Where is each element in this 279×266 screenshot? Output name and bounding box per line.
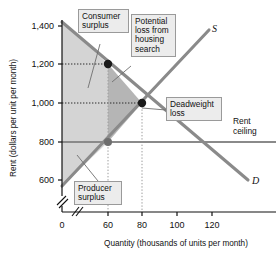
producer-surplus-region bbox=[62, 103, 108, 142]
supply-curve-label: S bbox=[212, 23, 217, 34]
demand-curve-label: D bbox=[251, 175, 260, 186]
y-tick-label-600: 600 bbox=[39, 175, 54, 185]
y-tick-label-1200: 1,200 bbox=[31, 59, 54, 69]
consumer-surplus-callout: Consumer surplus bbox=[78, 9, 129, 33]
producer-surplus-callout: Producer surplus bbox=[74, 181, 122, 205]
y-tick-label-800: 800 bbox=[39, 137, 54, 147]
deadweight-loss-callout: Deadweight loss bbox=[166, 97, 222, 121]
consumer-surplus-lower-region bbox=[62, 64, 108, 103]
y-tick-label-1400: 1,400 bbox=[31, 21, 54, 31]
x-axis-ticks bbox=[108, 212, 212, 216]
y-axis-title: Rent (dollars per unit per month) bbox=[9, 59, 18, 177]
x-tick-label-100: 100 bbox=[169, 220, 184, 230]
rent-ceiling-chart: 1,400 1,200 1,000 800 600 0 60 80 100 12… bbox=[0, 0, 279, 266]
x-tick-label-60: 60 bbox=[103, 220, 113, 230]
y-tick-label-1000: 1,000 bbox=[31, 98, 54, 108]
marker-demand-at-60 bbox=[104, 60, 112, 68]
rent-ceiling-label: Rent ceiling bbox=[233, 116, 257, 136]
x-tick-label-0: 0 bbox=[59, 220, 64, 230]
x-tick-label-80: 80 bbox=[137, 220, 147, 230]
x-axis-title: Quantity (thousands of units per month) bbox=[104, 239, 248, 248]
x-tick-label-120: 120 bbox=[204, 220, 219, 230]
marker-equilibrium bbox=[138, 99, 146, 107]
potential-loss-callout: Potential loss from housing search bbox=[131, 14, 176, 57]
marker-supply-at-ceiling bbox=[104, 138, 112, 146]
